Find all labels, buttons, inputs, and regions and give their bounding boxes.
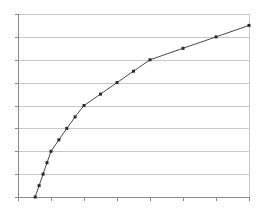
data-point-marker (42, 173, 45, 176)
data-point-marker (132, 70, 135, 73)
data-point-marker (215, 35, 218, 38)
data-point-marker (46, 161, 49, 164)
data-point-marker (83, 104, 86, 107)
data-point-marker (65, 127, 68, 130)
line-chart (0, 0, 261, 212)
data-point-marker (149, 58, 152, 61)
data-point-marker (57, 138, 60, 141)
series-line (35, 25, 249, 197)
data-markers (34, 24, 251, 199)
data-point-marker (50, 150, 53, 153)
data-point-marker (248, 24, 251, 27)
data-point-marker (74, 115, 77, 118)
data-point-marker (116, 81, 119, 84)
data-point-marker (99, 93, 102, 96)
data-point-marker (34, 196, 37, 199)
y-axis (15, 14, 19, 201)
x-axis (15, 197, 250, 201)
horizontal-gridlines (18, 15, 249, 175)
data-point-marker (182, 47, 185, 50)
data-point-marker (38, 184, 41, 187)
